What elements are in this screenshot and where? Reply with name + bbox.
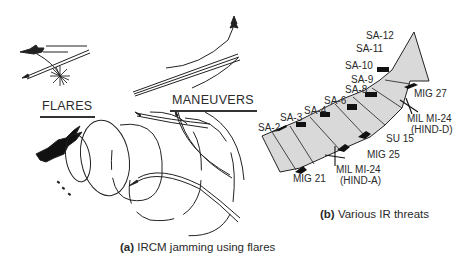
label-hind-a-line2: (HIND-A) (340, 176, 381, 186)
maneuvers-inset (133, 16, 240, 96)
caption-b: (b) Various IR threats (320, 209, 429, 221)
label-mig-21: MIG 21 (293, 174, 326, 184)
flares-heading: FLARES (42, 100, 92, 113)
label-sa-12: SA-12 (366, 31, 394, 41)
label-hind-d-line2: (HIND-D) (411, 125, 453, 135)
label-sa-10: SA-10 (345, 61, 373, 71)
jet-icon (230, 16, 238, 28)
sam-launcher-icon (377, 67, 389, 72)
label-sa-9: SA-9 (351, 75, 373, 85)
maneuvers-heading: MANEUVERS (172, 94, 254, 107)
label-sa-3: SA-3 (280, 113, 302, 123)
jamming-scene (36, 110, 244, 236)
label-mig-25: MIG 25 (367, 150, 400, 160)
caption-b-text: Various IR threats (335, 208, 429, 220)
label-sa-8: SA-8 (345, 85, 367, 95)
label-hind-d-line1: MIL MI-24 (407, 114, 452, 124)
label-sa-6: SA-6 (324, 96, 346, 106)
flares-inset (20, 45, 90, 86)
sam-launcher-icon (347, 104, 357, 110)
flare-burst-icon (50, 66, 70, 86)
label-sa-4: SA-4 (304, 106, 326, 116)
flare-dots (57, 181, 72, 196)
caption-a: (a) IRCM jamming using flares (120, 242, 275, 254)
label-mig-27: MIG 27 (414, 89, 447, 99)
missile-icon (135, 112, 141, 116)
jet-icon (20, 45, 44, 54)
caption-a-letter: (a) (120, 241, 134, 253)
caption-b-letter: (b) (320, 208, 335, 220)
missile-icon (22, 74, 29, 78)
caption-a-text: IRCM jamming using flares (134, 241, 275, 253)
label-hind-a-line1: MIL MI-24 (336, 165, 381, 175)
label-sa-11: SA-11 (356, 44, 383, 54)
label-sa-2: SA-2 (258, 123, 280, 133)
aircraft-icon (36, 126, 82, 162)
label-su-15: SU 15 (386, 134, 414, 144)
